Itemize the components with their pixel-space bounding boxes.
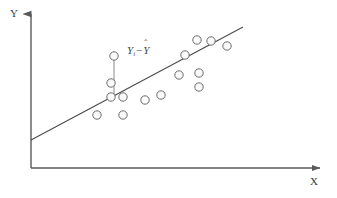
axes-group <box>31 14 320 168</box>
data-point <box>223 42 231 50</box>
regression-scatter-figure: Y X Yi−ˆY <box>0 0 337 198</box>
y-axis-label: Y <box>10 7 18 19</box>
data-point <box>181 51 189 59</box>
residual-annotation-label: Yi−ˆY <box>127 44 149 58</box>
residual-minus-sign: − <box>135 44 143 56</box>
data-point <box>141 96 149 104</box>
data-point <box>157 91 165 99</box>
data-point <box>107 79 115 87</box>
data-point <box>119 111 127 119</box>
data-point <box>195 69 203 77</box>
data-point <box>193 36 201 44</box>
data-point <box>207 37 215 45</box>
data-point <box>175 71 183 79</box>
residual-hat-accent: ˆ <box>144 38 147 48</box>
scatter-plot-canvas <box>0 0 337 198</box>
data-point <box>119 93 127 101</box>
data-point <box>93 111 101 119</box>
data-point <box>195 83 203 91</box>
data-point <box>107 93 115 101</box>
x-axis-label: X <box>310 175 318 187</box>
residual-yhat: ˆY <box>143 44 149 56</box>
data-point <box>110 52 118 60</box>
